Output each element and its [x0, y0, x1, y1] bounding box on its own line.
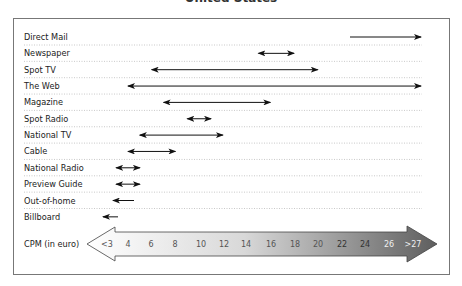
axis-tick: 24 [360, 240, 370, 249]
cpm-scale-arrow: CPM (in euro) <3468101214161820222426>27 [24, 226, 437, 262]
row-label: Direct Mail [24, 32, 68, 42]
axis-tick: 4 [125, 240, 130, 249]
row-label: National Radio [24, 163, 84, 173]
row-label: Spot TV [24, 65, 56, 75]
axis-tick: 6 [148, 240, 153, 249]
axis-tick: 26 [384, 240, 394, 249]
axis-tick: <3 [101, 240, 113, 249]
row-label: The Web [23, 81, 60, 91]
axis-tick: 18 [290, 240, 300, 249]
row-label: National TV [24, 130, 72, 140]
row-label: Newspaper [24, 48, 71, 58]
axis-tick: 8 [172, 240, 177, 249]
axis-tick: >27 [405, 240, 422, 249]
axis-tick: 12 [219, 240, 229, 249]
row-label: Magazine [24, 97, 63, 107]
axis-tick: 20 [313, 240, 323, 249]
axis-tick: 10 [196, 240, 206, 249]
axis-tick: 16 [266, 240, 276, 249]
row-label: Billboard [24, 212, 60, 222]
range-chart: Direct MailNewspaperSpot TVThe WebMagazi… [0, 0, 462, 286]
axis-tick: 22 [337, 240, 347, 249]
row-label: Out-of-home [24, 196, 76, 206]
axis-label: CPM (in euro) [24, 239, 79, 249]
row-label: Spot Radio [24, 114, 68, 124]
row-label: Preview Guide [24, 179, 83, 189]
axis-tick: 14 [241, 240, 251, 249]
row-label: Cable [24, 146, 47, 156]
chart-rows: Direct MailNewspaperSpot TVThe WebMagazi… [23, 32, 422, 222]
